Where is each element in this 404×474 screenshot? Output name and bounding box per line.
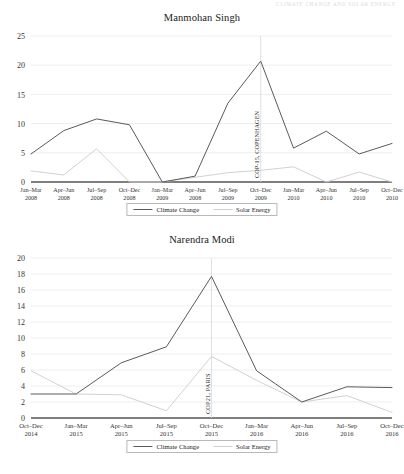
x-axis-tick-label: 2015 [205,430,219,437]
x-axis-tick-label: Oct–Dec [200,422,224,429]
x-axis-tick-label: Jan–Mar [65,422,89,429]
x-axis-tick-label: 2016 [385,430,399,437]
x-axis-tick-label: 2015 [160,430,174,437]
y-axis-tick-label: 25 [17,32,25,41]
x-axis-tick-label: Jul–Sep [350,187,369,193]
chart-title: Narendra Modi [0,234,404,245]
chart-annotation: COP-15, COPENHAGEN [253,110,260,178]
x-axis-tick-label: 2010 [386,195,398,201]
plot-area-wrapper: 02468101214161820COP21, PARISOct–Dec2014… [0,245,404,450]
figure-page: CLIMATE CHANGE AND SOLAR ENERGY Manmohan… [0,0,404,474]
x-axis-tick-label: Jul–Sep [218,187,237,193]
legend-label-solar-energy: Solar Energy [236,443,271,450]
x-axis-tick-label: 2016 [295,430,309,437]
legend-label-solar-energy: Solar Energy [236,206,271,213]
y-axis-tick-label: 4 [21,382,25,391]
x-axis-tick-label: 2008 [58,195,70,201]
line-chart-plot: 02468101214161820COP21, PARISOct–Dec2014… [0,245,404,450]
legend-item-solar-energy[interactable]: Solar Energy [213,206,271,213]
x-axis-tick-label: Jan–Mar [283,187,304,193]
running-head: CLIMATE CHANGE AND SOLAR ENERGY [276,1,396,7]
series-line-solar-energy [31,149,392,182]
x-axis-tick-label: Jan–Mar [20,187,41,193]
x-axis-tick-label: Oct–Dec [250,187,272,193]
x-axis-tick-label: Oct–Dec [19,422,43,429]
y-axis-tick-label: 6 [21,366,25,375]
x-axis-tick-label: 2016 [250,430,264,437]
x-axis-tick-label: 2010 [287,195,299,201]
y-axis-tick-label: 5 [21,149,25,158]
x-axis-tick-label: Apr–Jun [316,187,337,193]
x-axis-tick-label: Jul–Sep [336,422,358,429]
y-axis-tick-label: 14 [17,302,25,311]
x-axis-tick-label: 2009 [156,195,168,201]
series-line-climate-change [31,61,392,182]
x-axis-tick-label: 2015 [115,430,129,437]
x-axis-tick-label: Apr–Jun [290,422,313,429]
x-axis-tick-label: 2009 [255,195,267,201]
x-axis-tick-label: 2008 [189,195,201,201]
chart-legend: Climate Change Solar Energy [126,203,277,216]
legend-swatch-solar-energy [213,446,232,447]
x-axis-tick-label: Apr–Jun [53,187,74,193]
y-axis-tick-label: 10 [17,120,25,129]
legend-item-climate-change[interactable]: Climate Change [133,443,199,450]
legend-swatch-solar-energy [213,209,232,210]
y-axis-tick-label: 8 [21,350,25,359]
legend-item-climate-change[interactable]: Climate Change [133,206,199,213]
legend-label-climate-change: Climate Change [156,443,199,450]
chart-figure-narendra-modi: Narendra Modi 02468101214161820COP21, PA… [0,234,404,474]
legend-swatch-climate-change [133,446,152,447]
chart-title: Manmohan Singh [0,12,404,23]
y-axis-tick-label: 16 [17,286,25,295]
y-axis-tick-label: 10 [17,334,25,343]
y-axis-tick-label: 2 [21,398,25,407]
x-axis-tick-label: 2009 [222,195,234,201]
x-axis-tick-label: Apr–Jun [185,187,206,193]
x-axis-tick-label: Jul–Sep [87,187,106,193]
x-axis-tick-label: Oct–Dec [119,187,141,193]
chart-annotation: COP21, PARIS [204,373,211,414]
chart-figure-manmohan-singh: Manmohan Singh 0510152025COP-15, COPENHA… [0,12,404,234]
x-axis-tick-label: 2016 [340,430,354,437]
x-axis-tick-label: Oct–Dec [380,422,404,429]
x-axis-tick-label: 2008 [25,195,37,201]
x-axis-tick-label: Jan–Mar [152,187,173,193]
line-chart-plot: 0510152025COP-15, COPENHAGENJan–Mar2008A… [0,23,404,213]
x-axis-tick-label: 2010 [353,195,365,201]
legend-label-climate-change: Climate Change [156,206,199,213]
x-axis-tick-label: 2014 [24,430,38,437]
x-axis-tick-label: 2015 [70,430,84,437]
legend-item-solar-energy[interactable]: Solar Energy [213,443,271,450]
x-axis-tick-label: 2008 [91,195,103,201]
x-axis-tick-label: 2008 [123,195,135,201]
y-axis-tick-label: 20 [17,254,25,263]
x-axis-tick-label: Oct–Dec [381,187,403,193]
plot-area-wrapper: 0510152025COP-15, COPENHAGENJan–Mar2008A… [0,23,404,213]
y-axis-tick-label: 12 [17,318,25,327]
y-axis-tick-label: 20 [17,61,25,70]
legend-swatch-climate-change [133,209,152,210]
x-axis-tick-label: Jul–Sep [156,422,178,429]
x-axis-tick-label: Apr–Jun [110,422,133,429]
y-axis-tick-label: 15 [17,91,25,100]
chart-legend: Climate Change Solar Energy [126,440,277,453]
y-axis-tick-label: 18 [17,270,25,279]
x-axis-tick-label: 2010 [320,195,332,201]
x-axis-tick-label: Jan–Mar [245,422,269,429]
